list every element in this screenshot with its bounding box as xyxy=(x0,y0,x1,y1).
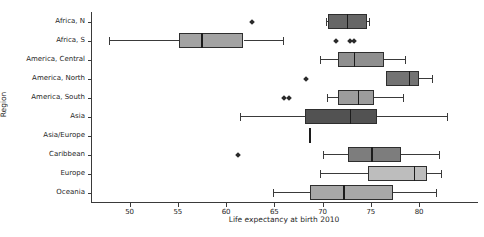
upper-whisker-cap xyxy=(441,170,442,178)
median-line xyxy=(347,14,349,29)
outlier-point xyxy=(235,152,241,158)
boxplot-figure: Region Life expectancy at birth 2010 505… xyxy=(0,0,484,237)
y-tick-mark xyxy=(88,136,92,137)
y-tick-mark xyxy=(88,155,92,156)
plot-area xyxy=(91,12,478,203)
lower-whisker xyxy=(327,97,338,98)
category-label: Oceania xyxy=(0,188,85,197)
y-tick-mark xyxy=(88,98,92,99)
lower-whisker-cap xyxy=(240,113,241,121)
y-tick-mark xyxy=(88,79,92,80)
median-line xyxy=(409,71,411,86)
lower-whisker xyxy=(273,192,310,193)
x-tick-mark xyxy=(178,203,179,207)
category-label: Europe xyxy=(0,169,85,178)
y-tick-mark xyxy=(88,117,92,118)
x-tick-label: 65 xyxy=(259,208,289,216)
category-label: Caribbean xyxy=(0,150,85,159)
category-label: America, South xyxy=(0,93,85,102)
upper-whisker xyxy=(377,116,448,117)
upper-whisker-cap xyxy=(432,75,433,83)
y-tick-mark xyxy=(88,174,92,175)
lower-whisker-cap xyxy=(109,37,110,45)
outlier-point xyxy=(333,38,339,44)
lower-whisker-cap xyxy=(273,189,274,197)
lower-whisker-cap xyxy=(327,94,328,102)
outlier-point xyxy=(303,76,309,82)
iqr-box xyxy=(310,185,393,200)
iqr-box xyxy=(179,33,244,48)
x-axis-label: Life expectancy at birth 2010 xyxy=(91,215,477,224)
upper-whisker xyxy=(419,78,433,79)
median-line xyxy=(414,166,416,181)
x-tick-mark xyxy=(226,203,227,207)
x-tick-label: 50 xyxy=(115,208,145,216)
x-tick-label: 60 xyxy=(211,208,241,216)
iqr-box xyxy=(386,71,419,86)
median-line xyxy=(371,147,373,162)
category-label: America, Central xyxy=(0,55,85,64)
median-line xyxy=(354,52,356,67)
x-tick-mark xyxy=(323,203,324,207)
lower-whisker-cap xyxy=(320,170,321,178)
upper-whisker-cap xyxy=(439,151,440,159)
median-line xyxy=(343,185,345,200)
upper-whisker xyxy=(384,59,405,60)
x-tick-mark xyxy=(371,203,372,207)
y-tick-mark xyxy=(88,193,92,194)
iqr-box xyxy=(305,109,376,124)
median-line xyxy=(358,90,360,105)
y-tick-mark xyxy=(88,60,92,61)
lower-whisker-cap xyxy=(320,56,321,64)
category-label: Asia xyxy=(0,112,85,121)
category-label: Africa, S xyxy=(0,36,85,45)
median-line xyxy=(350,109,352,124)
y-tick-mark xyxy=(88,22,92,23)
upper-whisker xyxy=(244,40,285,41)
x-tick-label: 55 xyxy=(163,208,193,216)
iqr-box xyxy=(368,166,427,181)
y-tick-mark xyxy=(88,41,92,42)
category-label: Asia/Europe xyxy=(0,131,85,140)
upper-whisker-cap xyxy=(369,18,370,26)
upper-whisker-cap xyxy=(405,56,406,64)
x-tick-mark xyxy=(274,203,275,207)
lower-whisker xyxy=(240,116,306,117)
upper-whisker xyxy=(374,97,404,98)
x-tick-mark xyxy=(130,203,131,207)
lower-whisker xyxy=(109,40,178,41)
upper-whisker xyxy=(427,173,442,174)
x-tick-label: 75 xyxy=(356,208,386,216)
lower-whisker xyxy=(323,154,348,155)
median-line xyxy=(309,128,311,143)
upper-whisker-cap xyxy=(403,94,404,102)
upper-whisker-cap xyxy=(283,37,284,45)
upper-whisker xyxy=(401,154,441,155)
outlier-point xyxy=(249,19,255,25)
lower-whisker-cap xyxy=(323,151,324,159)
x-tick-mark xyxy=(419,203,420,207)
iqr-box xyxy=(338,90,374,105)
lower-whisker xyxy=(320,59,338,60)
lower-whisker-cap xyxy=(326,18,327,26)
upper-whisker-cap xyxy=(436,189,437,197)
outlier-point xyxy=(286,95,292,101)
x-tick-label: 70 xyxy=(308,208,338,216)
iqr-box xyxy=(348,147,401,162)
x-tick-label: 80 xyxy=(404,208,434,216)
category-label: America, North xyxy=(0,74,85,83)
upper-whisker-cap xyxy=(447,113,448,121)
median-line xyxy=(201,33,203,48)
category-label: Africa, N xyxy=(0,17,85,26)
upper-whisker xyxy=(393,192,436,193)
iqr-box xyxy=(338,52,384,67)
lower-whisker xyxy=(320,173,368,174)
outlier-point xyxy=(352,38,358,44)
y-axis-label: Region xyxy=(0,75,8,135)
